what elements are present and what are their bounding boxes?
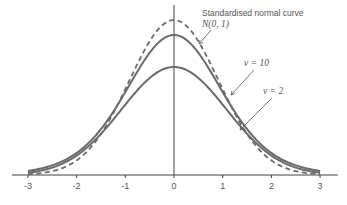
normal-pointer xyxy=(199,30,211,44)
x-tick-label: -1 xyxy=(121,181,129,191)
v10-pointer xyxy=(231,70,254,95)
x-tick-label: 1 xyxy=(220,181,225,191)
t-distribution-chart: -3-2-10123 Standardised normal curve N(0… xyxy=(0,0,347,205)
normal-label-2: N(0, 1) xyxy=(201,19,229,30)
x-tick-label: -3 xyxy=(24,181,32,191)
v2-pointer xyxy=(240,98,272,130)
annotations: Standardised normal curve N(0, 1) v = 10… xyxy=(199,8,304,130)
x-tick-label: -2 xyxy=(73,181,81,191)
x-tick-label: 3 xyxy=(318,181,323,191)
x-tick-label: 0 xyxy=(171,181,176,191)
x-ticks: -3-2-10123 xyxy=(24,175,323,191)
normal-label: Standardised normal curve xyxy=(202,8,304,18)
x-tick-label: 2 xyxy=(269,181,274,191)
v2-label: v = 2 xyxy=(263,86,283,96)
axes xyxy=(12,5,338,175)
v10-label: v = 10 xyxy=(244,58,269,68)
